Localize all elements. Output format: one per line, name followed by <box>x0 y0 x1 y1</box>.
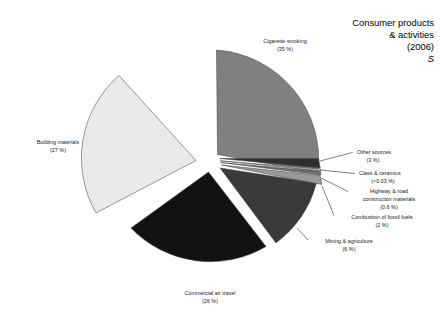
leader-line-class-ceramics <box>321 170 356 174</box>
slice-label-building-materials: Building materials <box>37 139 80 145</box>
slice-value-highway-road: (0.6 %) <box>380 204 398 210</box>
slice-label-other-sources: Other sources <box>357 149 391 155</box>
slice-value-building-materials: (27 %) <box>50 147 66 153</box>
leader-line-combustion <box>322 186 334 216</box>
pie-slice-building-materials[interactable] <box>81 76 196 214</box>
pie-slice-cigarette-smoking[interactable] <box>217 50 319 173</box>
slice-label-highway-road-line2: construction materials <box>363 196 416 202</box>
chart-title-line1: Consumer products <box>352 17 434 28</box>
leader-line-mining-agriculture <box>297 228 308 240</box>
slice-value-commercial-air-travel: (26 %) <box>202 298 218 304</box>
slice-value-class-ceramics: (<0.03 %) <box>371 178 395 184</box>
slice-label-commercial-air-travel: Commercial air travel <box>185 290 236 296</box>
slice-value-mining-agriculture: (6 %) <box>343 246 356 252</box>
slice-label-highway-road-line1: Highway & road <box>370 188 408 194</box>
leader-line-other-sources <box>320 153 353 162</box>
chart-title-line2: & activities <box>389 29 434 40</box>
chart-title-symbol: S <box>428 53 435 64</box>
slice-value-combustion: (2 %) <box>376 222 389 228</box>
chart-title-line3: (2006) <box>407 41 434 52</box>
slice-value-cigarette-smoking: (35 %) <box>277 46 293 52</box>
leader-line-highway-road <box>321 178 348 192</box>
slice-label-class-ceramics: Class & ceramics <box>359 170 401 176</box>
pie-chart-canvas: Consumer products & activities (2006) S … <box>0 0 442 314</box>
slice-label-combustion: Combustion of fossil fuels <box>351 214 413 220</box>
slice-label-cigarette-smoking: Cigarette smoking <box>263 38 306 44</box>
slice-value-other-sources: (3 %) <box>367 157 380 163</box>
pie-chart-figure: Consumer products & activities (2006) S … <box>0 0 442 314</box>
slice-label-mining-agriculture: Mining & agriculture <box>325 238 373 244</box>
